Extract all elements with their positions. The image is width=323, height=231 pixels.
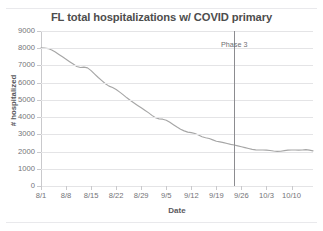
gridline-horizontal — [41, 186, 313, 187]
x-axis-tick-label: 10/10 — [272, 191, 312, 200]
x-axis-tick — [91, 186, 92, 190]
y-axis-tick — [37, 65, 41, 66]
x-axis-tick — [66, 186, 67, 190]
x-axis-tick — [41, 186, 42, 190]
gridline-horizontal — [41, 117, 313, 118]
x-axis-tick — [292, 186, 293, 190]
gridline-horizontal — [41, 100, 313, 101]
y-axis-tick-label: 2000 — [1, 147, 35, 156]
x-axis-tick — [166, 186, 167, 190]
y-axis-tick-label: 4000 — [1, 112, 35, 121]
y-axis-tick — [37, 134, 41, 135]
top-divider — [6, 8, 317, 9]
gridline-horizontal — [41, 169, 313, 170]
y-axis-tick-label: 3000 — [1, 129, 35, 138]
y-axis-tick-label: 7000 — [1, 60, 35, 69]
gridline-horizontal — [41, 134, 313, 135]
y-axis-tick-label: 8000 — [1, 43, 35, 52]
x-axis-tick — [266, 186, 267, 190]
y-axis-tick — [37, 100, 41, 101]
series-line-hospitalizations — [41, 31, 313, 186]
y-axis-tick — [37, 169, 41, 170]
y-axis-tick — [37, 152, 41, 153]
y-axis-tick-label: 6000 — [1, 78, 35, 87]
chart-title: FL total hospitalizations w/ COVID prima… — [0, 11, 323, 23]
bottom-divider — [6, 222, 317, 223]
y-axis-title: # hospitalized — [9, 36, 18, 166]
phase-3-marker-line — [234, 31, 235, 186]
gridline-horizontal — [41, 65, 313, 66]
y-axis-tick-label: 1000 — [1, 164, 35, 173]
x-axis-tick — [191, 186, 192, 190]
x-axis-tick — [241, 186, 242, 190]
phase-3-marker-label: Phase 3 — [199, 40, 269, 49]
y-axis-tick — [37, 117, 41, 118]
x-axis-tick — [216, 186, 217, 190]
y-axis-tick — [37, 48, 41, 49]
x-axis-tick — [116, 186, 117, 190]
x-axis-tick — [141, 186, 142, 190]
gridline-horizontal — [41, 48, 313, 49]
y-axis-tick — [37, 83, 41, 84]
y-axis-tick-label: 0 — [1, 181, 35, 190]
chart-figure: FL total hospitalizations w/ COVID prima… — [0, 0, 323, 231]
y-axis-tick-label: 9000 — [1, 26, 35, 35]
plot-area — [41, 31, 313, 186]
gridline-horizontal — [41, 152, 313, 153]
gridline-horizontal — [41, 31, 313, 32]
gridline-horizontal — [41, 83, 313, 84]
y-axis-tick — [37, 31, 41, 32]
y-axis-tick-label: 5000 — [1, 95, 35, 104]
x-axis-title: Date — [41, 206, 313, 215]
